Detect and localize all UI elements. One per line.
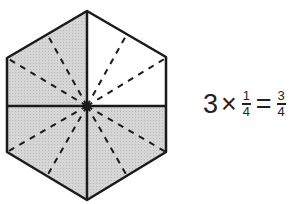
numerator: 3: [277, 90, 284, 102]
equals-sign: =: [256, 89, 272, 120]
equation: 3 × 1 4 = 3 4: [203, 84, 288, 124]
times-sign: ×: [221, 89, 237, 120]
denominator: 4: [277, 106, 284, 118]
fraction-one-quarter: 1 4: [242, 90, 251, 118]
multiplier: 3: [203, 89, 218, 120]
denominator: 4: [243, 106, 250, 118]
numerator: 1: [243, 90, 250, 102]
center-dot: [84, 103, 91, 110]
shaded-top-left: [7, 11, 87, 106]
fraction-result: 3 4: [277, 90, 286, 118]
